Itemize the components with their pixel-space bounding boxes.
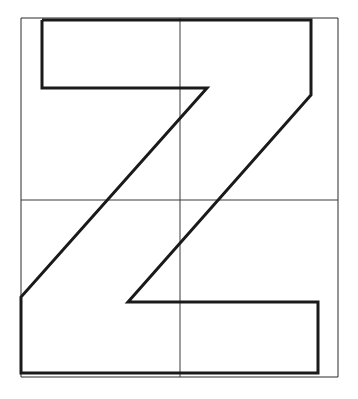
figure-canvas xyxy=(0,0,358,399)
letter-z-construction-svg xyxy=(0,0,358,399)
